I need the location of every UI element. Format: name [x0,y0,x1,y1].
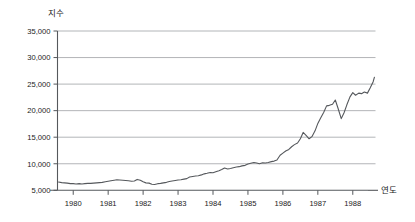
x-tick-label: 1984 [205,199,222,208]
y-axis-title: 지수 [48,8,64,18]
y-axis-group: 35,00030,00025,00020,00015,00010,0005,00… [27,27,57,195]
line-chart: 35,00030,00025,00020,00015,00010,0005,00… [0,0,415,222]
y-tick-label: 20,000 [27,106,50,115]
y-tick-label: 25,000 [27,80,50,89]
x-tick-label: 1982 [135,199,152,208]
x-tickmarks [73,190,353,195]
x-tick-label: 1981 [100,199,117,208]
y-tick-label: 30,000 [27,53,50,62]
x-tick-label: 1988 [344,199,361,208]
x-tick-label: 1983 [170,199,187,208]
x-axis-group: 198019811982198319841985198619871988 [50,190,378,208]
y-tickmarks [54,31,58,190]
gridlines-group [58,31,376,164]
x-tick-label: 1987 [309,199,326,208]
x-tick-labels: 198019811982198319841985198619871988 [65,199,361,208]
y-tick-label: 35,000 [27,27,50,36]
data-series-line [59,77,375,184]
x-tick-label: 1980 [65,199,82,208]
y-tick-label: 15,000 [27,133,50,142]
x-tick-label: 1986 [274,199,291,208]
y-tick-label: 5,000 [31,186,50,195]
chart-container: 35,00030,00025,00020,00015,00010,0005,00… [0,0,415,222]
x-tick-label: 1985 [239,199,256,208]
y-tick-label: 10,000 [27,160,50,169]
y-tick-labels: 35,00030,00025,00020,00015,00010,0005,00… [27,27,50,195]
x-axis-title: 연도 [381,185,397,195]
